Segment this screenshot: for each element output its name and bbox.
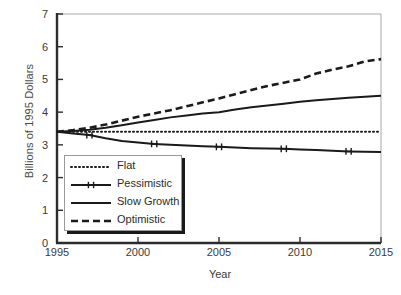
series-line-slow-growth xyxy=(57,96,381,132)
legend-label: Slow Growth xyxy=(112,195,179,207)
series-line-pessimistic xyxy=(57,132,381,152)
legend-item-pessimistic[interactable]: Pessimistic xyxy=(65,174,181,192)
series-line-optimistic xyxy=(57,59,381,132)
legend-label: Pessimistic xyxy=(112,177,172,189)
legend-item-flat[interactable]: Flat xyxy=(65,156,181,174)
legend-line-sample-icon xyxy=(70,159,112,171)
chart-legend: FlatPessimisticSlow GrowthOptimistic xyxy=(64,155,182,231)
legend-line-sample-icon xyxy=(70,195,112,207)
legend-item-slow-growth[interactable]: Slow Growth xyxy=(65,192,181,210)
legend-line-sample-icon xyxy=(70,177,112,189)
chart-figure: Billions of 1995 Dollars 01234567 199520… xyxy=(0,0,401,295)
plot-area xyxy=(0,0,401,295)
legend-label: Flat xyxy=(112,159,135,171)
legend-item-optimistic[interactable]: Optimistic xyxy=(65,210,181,228)
legend-label: Optimistic xyxy=(112,213,165,225)
legend-line-sample-icon xyxy=(70,213,112,225)
